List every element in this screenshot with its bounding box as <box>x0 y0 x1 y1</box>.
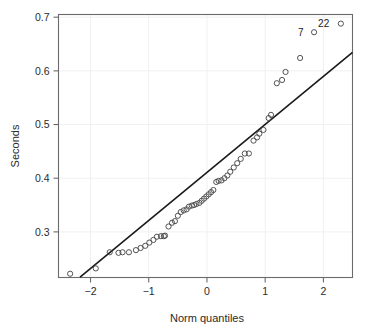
qq-plot-canvas: −2−1012 0.30.40.50.60.7 722 Norm quantil… <box>0 0 370 330</box>
x-tick-label: −1 <box>143 285 155 297</box>
y-tick-label: 0.3 <box>35 226 50 238</box>
outlier-label: 22 <box>318 18 330 29</box>
outlier-label: 7 <box>298 27 304 38</box>
x-axis-title: Norm quantiles <box>170 312 244 324</box>
x-tick-label: −2 <box>85 285 97 297</box>
y-tick-label: 0.4 <box>35 172 50 184</box>
y-axis-title: Seconds <box>9 124 21 167</box>
y-tick-label: 0.6 <box>35 65 50 77</box>
x-tick-label: 0 <box>204 285 210 297</box>
y-tick-label: 0.7 <box>35 11 50 23</box>
y-tick-label: 0.5 <box>35 118 50 130</box>
plot-background <box>0 0 370 330</box>
x-tick-label: 2 <box>320 285 326 297</box>
x-tick-label: 1 <box>262 285 268 297</box>
qq-plot-figure: −2−1012 0.30.40.50.60.7 722 Norm quantil… <box>0 0 370 330</box>
